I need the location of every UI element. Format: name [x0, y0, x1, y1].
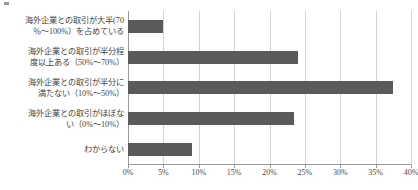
bar-0 — [128, 20, 163, 33]
category-label-2-line-0: 海外企業との取引が半分に — [28, 77, 124, 88]
category-label-2: 海外企業との取引が半分に 満たない（10%～50%） — [2, 73, 124, 104]
category-label-0: 海外企業との取引が大半(70 ％～100%）を占めている — [2, 11, 124, 42]
bar-row-4 — [128, 134, 411, 165]
chart-title-strip — [4, 0, 404, 5]
tick-label-20: 20% — [262, 168, 277, 178]
category-label-1: 海外企業との取引が半分程 度以上ある（50%～70%） — [2, 42, 124, 73]
category-label-3: 海外企業との取引がほぼな い（0%～10%） — [2, 103, 124, 134]
category-label-4: わからない — [2, 134, 124, 165]
title-marker-icon — [4, 2, 9, 5]
category-label-3-line-1: い（0%～10%） — [28, 119, 124, 130]
category-label-3-line-0: 海外企業との取引がほぼな — [28, 108, 124, 119]
category-label-2-line-1: 満たない（10%～50%） — [28, 88, 124, 99]
category-label-0-line-1: ％～100%）を占めている — [25, 26, 124, 37]
tick-label-25: 25% — [298, 168, 313, 178]
bar-4 — [128, 143, 192, 156]
category-label-1-line-1: 度以上ある（50%～70%） — [28, 57, 124, 68]
tick-label-40: 40% — [404, 168, 418, 178]
bar-row-3 — [128, 103, 411, 134]
bar-row-0 — [128, 11, 411, 42]
tick-label-10: 10% — [191, 168, 206, 178]
bar-row-1 — [128, 42, 411, 73]
category-label-4-line-0: わからない — [84, 144, 124, 155]
bar-2 — [128, 81, 393, 94]
tick-label-30: 30% — [333, 168, 348, 178]
tick-label-35: 35% — [368, 168, 383, 178]
category-label-0-line-0: 海外企業との取引が大半(70 — [25, 15, 124, 26]
category-label-1-line-0: 海外企業との取引が半分程 — [28, 46, 124, 57]
tick-label-5: 5% — [158, 168, 169, 178]
tick-label-15: 15% — [227, 168, 242, 178]
plot-area — [128, 11, 411, 165]
bar-1 — [128, 51, 298, 64]
bar-row-2 — [128, 73, 411, 104]
tick-label-0: 0% — [123, 168, 134, 178]
bar-3 — [128, 112, 294, 125]
gridline-40 — [411, 11, 412, 165]
